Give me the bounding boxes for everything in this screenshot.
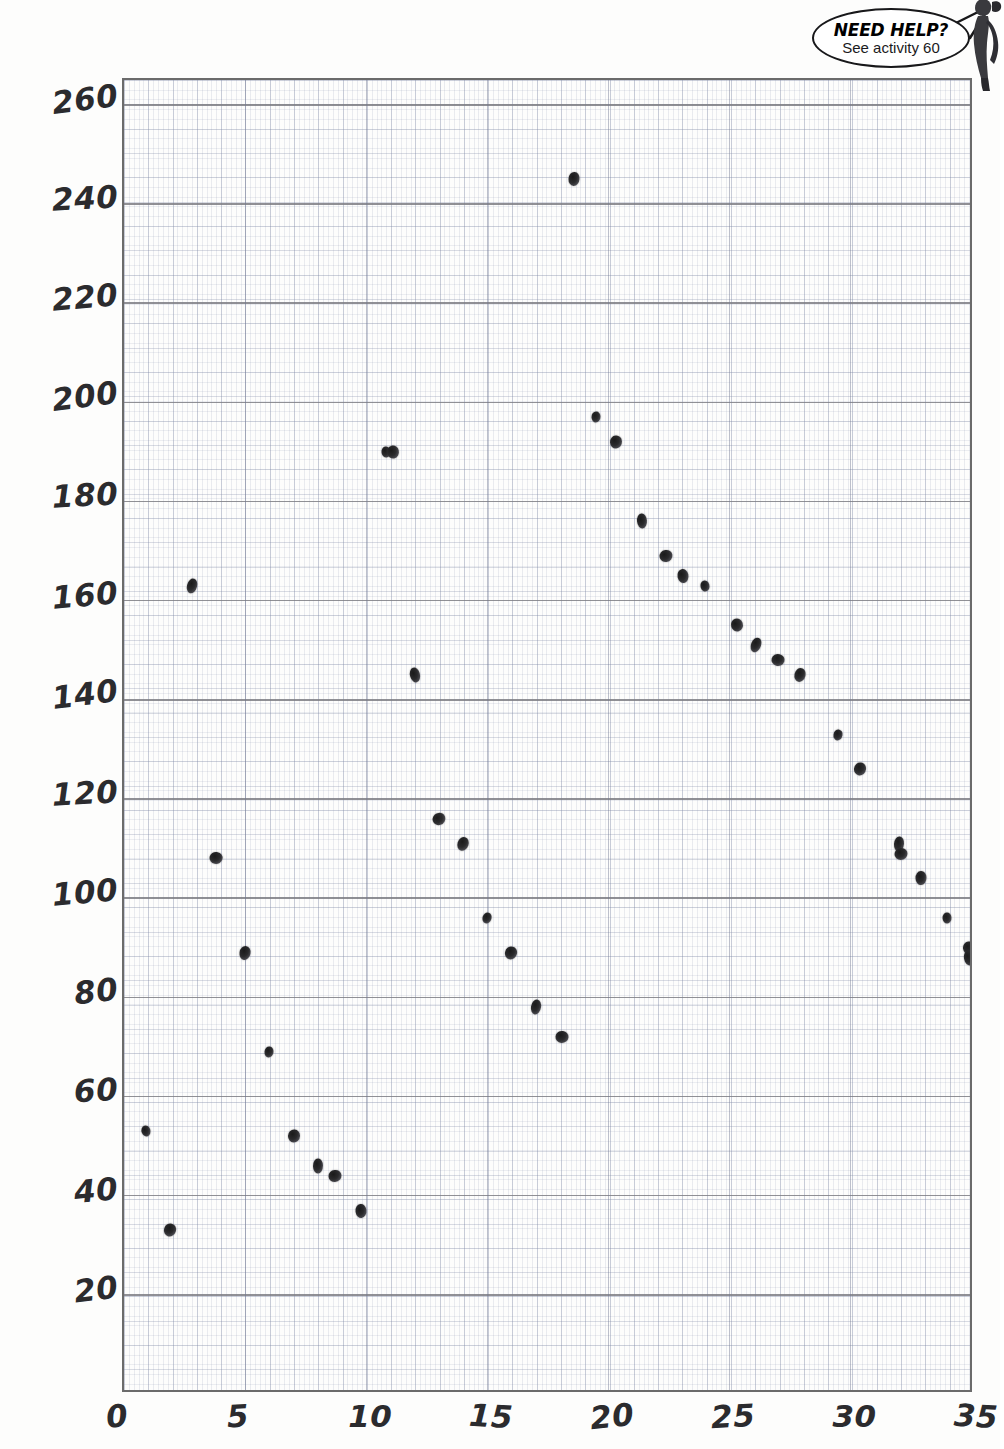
data-point: [699, 579, 711, 592]
y-tick-label: 240: [51, 178, 119, 217]
major-gridline-y: [124, 897, 970, 899]
y-tick-label: 80: [72, 971, 120, 1012]
major-gridline-x: [487, 80, 488, 1390]
data-point: [313, 1158, 323, 1173]
major-gridline-y: [124, 402, 970, 404]
data-point: [833, 728, 844, 740]
data-point: [729, 617, 744, 633]
y-tick-label: 180: [51, 476, 119, 515]
major-gridline-y: [124, 798, 970, 800]
major-gridline-y: [124, 1195, 970, 1197]
major-gridline-y: [124, 997, 970, 999]
graph-paper-minor-grid: [124, 80, 970, 1390]
data-point: [385, 444, 400, 459]
y-tick-label: 160: [50, 574, 119, 616]
data-point: [456, 835, 471, 852]
data-point: [481, 912, 493, 925]
speech-bubble-text: NEED HELP? See activity 60: [812, 8, 970, 68]
y-tick-label: 200: [50, 374, 120, 418]
x-tick-label: 10: [348, 1398, 392, 1434]
x-tick-label: 15: [468, 1397, 514, 1435]
need-help-callout[interactable]: NEED HELP? See activity 60: [812, 8, 972, 70]
data-point: [659, 549, 674, 563]
data-point: [793, 667, 807, 683]
y-tick-label: 60: [73, 1071, 119, 1109]
x-tick-label: 35: [953, 1397, 999, 1435]
data-point: [915, 871, 926, 885]
data-point: [328, 1169, 342, 1182]
see-activity-subtext: See activity 60: [842, 40, 940, 55]
y-tick-label: 140: [50, 672, 120, 716]
y-tick-label: 20: [72, 1268, 120, 1309]
data-point: [963, 949, 972, 966]
data-point: [609, 435, 622, 449]
major-gridline-y: [124, 600, 970, 602]
data-point: [530, 999, 542, 1015]
data-point: [140, 1124, 152, 1137]
cartoon-person-icon: [962, 0, 1004, 92]
x-tick-label: 30: [832, 1398, 876, 1434]
data-point: [504, 945, 518, 960]
need-help-headline: NEED HELP?: [834, 22, 948, 39]
data-point: [942, 912, 952, 924]
data-point: [408, 666, 422, 683]
x-tick-label: 25: [710, 1397, 756, 1435]
data-point: [636, 513, 648, 529]
major-gridline-y: [124, 1096, 970, 1098]
y-tick-label: 40: [72, 1170, 119, 1210]
scatter-plot-area: [122, 78, 972, 1392]
data-point: [239, 945, 252, 960]
major-gridline-y: [124, 1294, 970, 1296]
major-gridline-y: [124, 501, 970, 503]
data-point: [287, 1129, 299, 1142]
major-gridline-y: [124, 203, 970, 205]
data-point: [569, 172, 581, 187]
y-tick-label: 100: [50, 871, 119, 913]
data-point: [264, 1046, 274, 1058]
y-tick-label: 120: [51, 773, 119, 812]
major-gridline-x: [729, 80, 730, 1390]
data-point: [555, 1030, 569, 1043]
data-point: [208, 851, 223, 865]
major-gridline-x: [366, 80, 367, 1390]
major-gridline-x: [608, 80, 609, 1390]
y-tick-label: 260: [50, 77, 120, 121]
major-gridline-y: [124, 302, 970, 304]
data-point: [592, 412, 601, 423]
data-point: [895, 847, 908, 859]
x-tick-label: 0: [104, 1397, 130, 1435]
major-gridline-x: [850, 80, 851, 1390]
data-point: [431, 811, 447, 827]
major-gridline-y: [124, 699, 970, 701]
y-tick-label: 220: [50, 276, 119, 318]
x-tick-label: 5: [226, 1397, 250, 1434]
data-point: [749, 637, 763, 654]
x-tick-label: 20: [589, 1396, 637, 1436]
data-point: [185, 577, 198, 594]
data-point: [770, 653, 786, 668]
data-point: [162, 1222, 177, 1238]
data-point: [677, 568, 691, 584]
major-gridline-y: [124, 104, 970, 106]
major-gridline-x: [245, 80, 246, 1390]
data-point: [853, 762, 866, 776]
